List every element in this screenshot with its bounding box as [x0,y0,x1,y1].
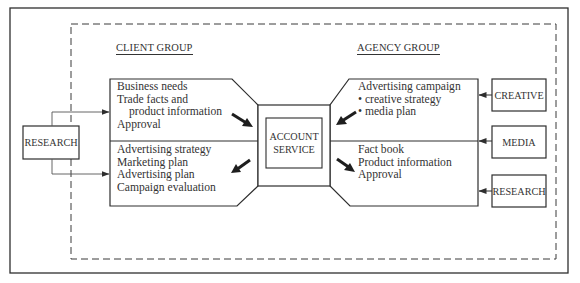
client-group-heading: CLIENT GROUP [116,42,193,55]
account-service-line2: SERVICE [273,143,315,156]
client-input-item: Business needs [117,81,222,94]
research-to-client-lower-arrow [52,159,109,174]
creative-label: CREATIVE [492,79,546,111]
agency-inputs-list: Advertising campaign • creative strategy… [358,81,461,119]
client-input-item: product information [117,106,222,119]
research-right-label: RESEARCH [492,175,546,207]
agency-outputs-list: Fact book Product information Approval [358,144,452,182]
account-service-label: ACCOUNT SERVICE [266,118,322,168]
client-output-item: Advertising strategy [117,144,216,157]
agency-input-item: • media plan [358,106,461,119]
research-left-label: RESEARCH [23,126,79,159]
research-to-client-upper-arrow [52,112,109,126]
account-service-line1: ACCOUNT [269,130,318,143]
client-output-item: Campaign evaluation [117,182,216,195]
media-label: MEDIA [492,126,546,158]
agency-input-item: Advertising campaign [358,81,461,94]
agency-output-item: Fact book [358,144,452,157]
client-output-item: Advertising plan [117,169,216,182]
client-inputs-list: Business needs Trade facts and product i… [117,81,222,131]
agency-group-heading: AGENCY GROUP [357,42,440,55]
client-input-item: Approval [117,119,222,132]
client-outputs-list: Advertising strategy Marketing plan Adve… [117,144,216,194]
agency-output-item: Approval [358,169,452,182]
